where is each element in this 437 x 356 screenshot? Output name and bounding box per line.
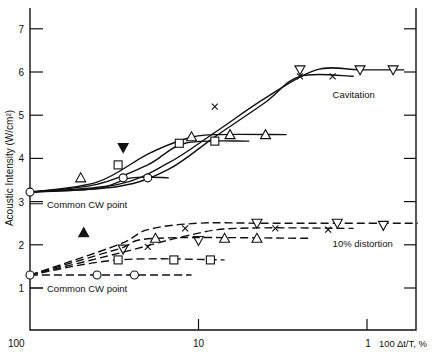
y-tick-label: 1 (18, 283, 24, 294)
chart-figure: 1234567 100101 Acoustic Intensity (W/cm²… (0, 0, 437, 356)
triangle-up-marker (76, 173, 86, 182)
plot-frame (30, 8, 416, 330)
x-tick-label: 1 (365, 338, 371, 349)
y-tick-label: 5 (18, 110, 24, 121)
y-tick-label: 4 (18, 153, 24, 164)
y-tick-label: 6 (18, 67, 24, 78)
triangle-down-marker (295, 66, 305, 75)
series-line (30, 141, 249, 192)
triangle-up-marker (79, 228, 89, 237)
annotation-label: Common CW point (47, 283, 128, 294)
circle-marker (26, 271, 34, 279)
annotation-label: Cavitation (333, 89, 375, 100)
circle-marker (144, 174, 152, 182)
x-tick-label: 10 (193, 338, 205, 349)
triangle-down-marker (118, 144, 128, 153)
circle-marker (26, 188, 34, 196)
y-axis-label: Acoustic Intensity (W/cm²) (4, 110, 15, 226)
series-group-10-distortion (30, 219, 418, 279)
chart-svg: 1234567 100101 Acoustic Intensity (W/cm²… (0, 0, 437, 356)
x-axis-label: 100 Δt/T, % (379, 338, 428, 349)
circle-marker (119, 174, 127, 182)
square-marker (114, 256, 122, 264)
square-marker (206, 256, 214, 264)
triangle-down-marker (378, 221, 388, 230)
square-marker (114, 161, 122, 169)
circle-marker (93, 271, 101, 279)
square-marker (175, 139, 183, 147)
square-marker (170, 256, 178, 264)
y-ticks: 1234567 (18, 24, 416, 294)
annotation-label: 10% distortion (333, 238, 393, 249)
circle-marker (130, 271, 138, 279)
square-marker (211, 137, 219, 145)
series-line (30, 228, 354, 275)
series-line (30, 223, 418, 275)
series-line (30, 68, 404, 192)
annotation-label: Common CW point (47, 199, 128, 210)
x-tick-label: 100 (8, 338, 25, 349)
axes: 1234567 100101 (8, 8, 416, 349)
series-line (30, 134, 287, 192)
series-group-cavitation (30, 66, 404, 192)
y-tick-label: 2 (18, 240, 24, 251)
y-tick-label: 3 (18, 197, 24, 208)
x-ticks: 100101 (8, 319, 371, 349)
y-tick-label: 7 (18, 24, 24, 35)
